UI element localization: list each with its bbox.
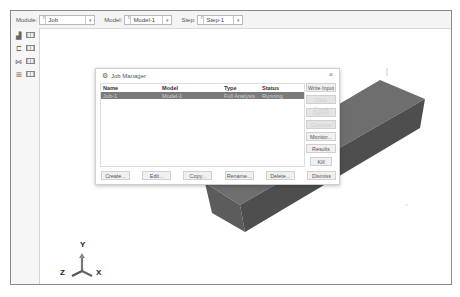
kill-button[interactable]: Kill [310,157,332,166]
dismiss-button[interactable]: Dismiss [307,171,336,180]
delete-button[interactable]: Delete... [266,171,295,180]
col-status[interactable]: Status [262,85,302,91]
submit-button[interactable]: Submit [306,108,336,117]
view-triad: Y Z X [58,240,118,280]
col-name[interactable]: Name [103,85,162,91]
data-check-button[interactable]: Data Check [306,95,336,104]
job-name: Job-1 [103,93,162,99]
edit-button[interactable]: Edit... [142,171,171,180]
col-type[interactable]: Type [224,85,262,91]
continue-button[interactable]: Continue [306,120,336,129]
monitor-button[interactable]: Monitor... [306,132,336,141]
job-model: Model-1 [162,93,224,99]
jobs-list[interactable]: Name Model Type Status Job-1 Model-1 Ful… [100,83,305,167]
gear-icon: ⚙ [102,72,108,80]
list-header: Name Model Type Status [101,84,304,92]
dialog-title: Job Manager [111,73,146,79]
triad-z-label: Z [60,268,65,277]
table-row[interactable]: Job-1 Model-1 Full Analysis Running [101,92,304,99]
results-button[interactable]: Results [306,144,336,153]
create-button[interactable]: Create... [101,171,130,180]
close-icon[interactable]: × [329,71,333,78]
col-model[interactable]: Model [162,85,224,91]
job-type: Full Analysis [224,93,262,99]
copy-button[interactable]: Copy... [183,171,212,180]
job-actions: Write Input Data Check Submit Continue M… [306,83,336,169]
triad-x-label: X [96,268,101,277]
dialog-footer: Create... Edit... Copy... Rename... Dele… [101,171,336,180]
dialog-title-bar: ⚙ Job Manager [102,72,146,80]
triad-y-label: Y [80,240,85,249]
job-status: Running [262,93,302,99]
job-manager-dialog: ⚙ Job Manager × Name Model Type Status J… [95,68,340,185]
rename-button[interactable]: Rename... [225,171,254,180]
write-input-button[interactable]: Write Input [306,83,336,92]
